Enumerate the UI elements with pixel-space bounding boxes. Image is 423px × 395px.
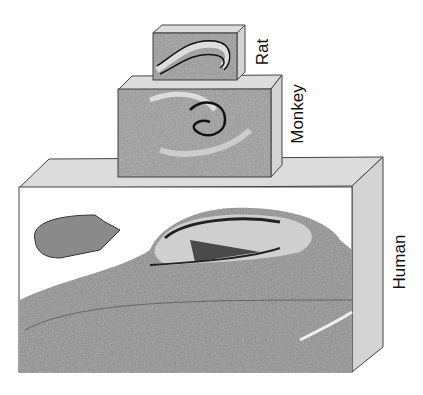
comparative-hippocampus-diagram [0, 0, 423, 395]
label-rat: Rat [253, 37, 273, 67]
label-monkey: Monkey [288, 84, 308, 144]
human-hippocampus-section [20, 208, 352, 372]
rat-block [153, 25, 245, 80]
label-human: Human [390, 232, 410, 292]
monkey-block [118, 75, 282, 177]
human-block [19, 157, 383, 372]
